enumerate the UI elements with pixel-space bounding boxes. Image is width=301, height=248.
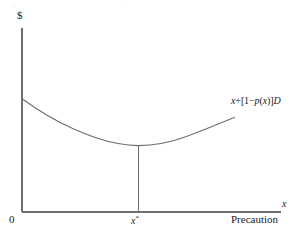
- cost-curve-plot: [0, 0, 301, 248]
- curve-equation-label: x+[1−p(x)]D: [231, 96, 281, 106]
- optimum-tick-star: *: [135, 214, 139, 222]
- figure-container: c · $ 0 x Precaution x* x+[1−p(x)]D: [0, 0, 301, 248]
- curve-eq-d: D: [274, 95, 281, 106]
- x-axis-name-label: Precaution: [231, 214, 278, 225]
- origin-label: 0: [9, 214, 15, 225]
- y-axis-label: $: [17, 10, 23, 21]
- optimum-tick-label: x*: [131, 216, 139, 226]
- curve-eq-bracket-open: +[1−: [235, 95, 254, 106]
- total-cost-curve: [23, 99, 235, 146]
- x-axis-symbol-label: x: [282, 199, 286, 209]
